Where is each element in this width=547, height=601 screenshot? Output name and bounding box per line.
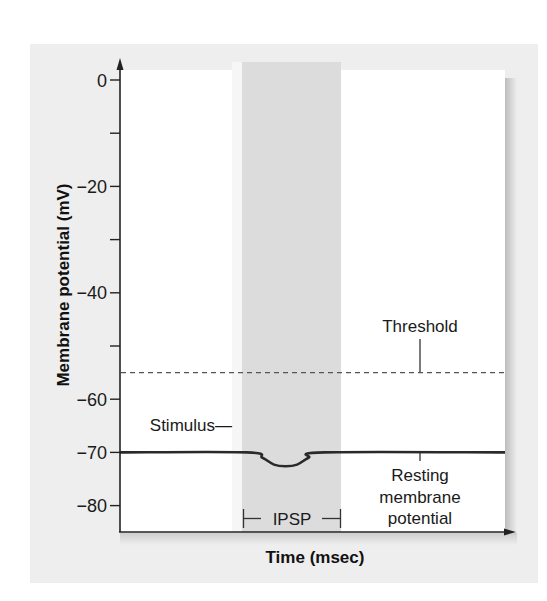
y-axis-arrowhead (117, 58, 124, 70)
ipsp-label: IPSP (273, 510, 312, 529)
plot-bottom-shadow (120, 533, 517, 545)
ipsp-shaded-band (242, 62, 341, 532)
resting-label-line-3: potential (388, 509, 452, 528)
ipsp-chart: 0−20−40−60−70−80 Threshold Resting membr… (0, 0, 547, 601)
plot-right-shadow (505, 78, 517, 534)
resting-label-line-1: Resting (391, 466, 449, 485)
y-tick-label: −20 (76, 177, 107, 197)
resting-label-line-2: membrane (379, 488, 460, 507)
y-tick-label: −40 (76, 283, 107, 303)
y-axis-ticks: 0−20−40−60−70−80 (76, 71, 120, 517)
y-tick-label: −80 (76, 496, 107, 516)
stimulus-strip (232, 62, 242, 532)
x-axis-title: Time (msec) (266, 548, 365, 567)
threshold-label: Threshold (382, 317, 458, 336)
stimulus-label: Stimulus— (150, 416, 232, 435)
y-tick-label: −60 (76, 390, 107, 410)
y-axis-title: Membrane potential (mV) (54, 183, 73, 386)
y-tick-label: 0 (97, 71, 107, 91)
y-tick-label: −70 (76, 443, 107, 463)
chart-canvas: 0−20−40−60−70−80 Threshold Resting membr… (0, 0, 547, 601)
